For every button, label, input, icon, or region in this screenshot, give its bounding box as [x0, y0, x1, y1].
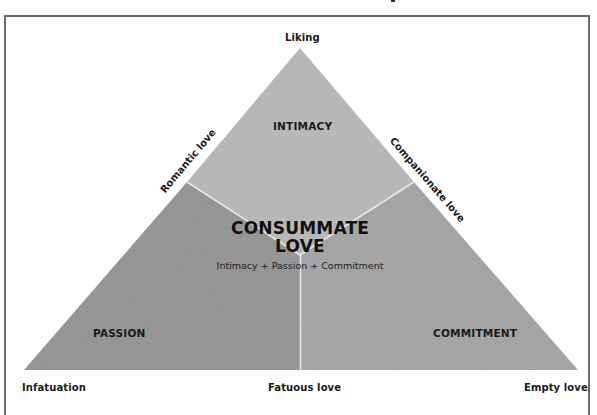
center-subtitle: Intimacy + Passion + Commitment — [180, 260, 420, 271]
region-label-commitment: COMMITMENT — [433, 327, 517, 339]
vertex-label-infatuation: Infatuation — [22, 382, 86, 393]
edge-label-fatuous-love: Fatuous love — [268, 382, 341, 393]
center-title-line2: LOVE — [200, 237, 400, 255]
vertex-label-liking: Liking — [285, 32, 320, 43]
region-label-intimacy: INTIMACY — [273, 120, 332, 132]
vertex-label-empty-love: Empty love — [524, 382, 588, 393]
center-title-line1: CONSUMMATE — [200, 219, 400, 237]
region-label-passion: PASSION — [93, 327, 146, 339]
